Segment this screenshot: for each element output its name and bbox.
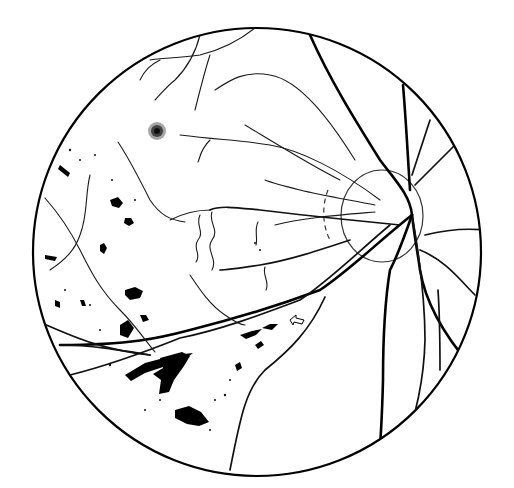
vessel-lower-left: [35, 320, 150, 355]
vessel-superior-temporal: [180, 135, 380, 200]
vessel-nasal-4: [425, 229, 485, 235]
fundus-diagram: [0, 0, 514, 488]
vessel-left-1: [118, 142, 185, 222]
vessel-superior-branch: [245, 125, 340, 180]
vessel-horizontal-1: [210, 207, 400, 225]
macular-pigment-spot: [148, 122, 166, 140]
vessel-left-2: [45, 198, 155, 352]
vessel-left-3: [50, 175, 90, 270]
vessel-upper-1: [150, 28, 255, 60]
vessel-major-superior: [310, 35, 470, 365]
vessel-nasal-3: [420, 250, 475, 295]
arrow-marker: [290, 315, 304, 325]
vessel-inferior-lower: [230, 297, 325, 470]
vessel-upper-3: [195, 55, 210, 110]
vessel-inferior-nasal: [405, 215, 425, 440]
vessel-temporal-1: [265, 180, 375, 205]
vessel-upper-4: [140, 60, 160, 80]
vessel-nasal-5: [438, 290, 440, 370]
vessel-branch-small: [198, 140, 210, 162]
vessel-superior-arcade: [215, 74, 355, 160]
vessel-inferior-arcade-2: [70, 225, 390, 375]
vessel-horizontal-2: [220, 240, 350, 270]
vessel-upper-2: [155, 35, 200, 100]
optic-disc-dashed-margin: [324, 190, 330, 240]
vessel-nasal-1: [412, 120, 430, 175]
vessel-major-vertical: [403, 85, 410, 190]
field-of-view-circle: [33, 28, 481, 476]
vessel-tortuous-3: [256, 222, 258, 245]
vessel-tortuous-1: [196, 215, 201, 262]
vessel-inferior-arcade: [60, 215, 412, 345]
vessel-nasal-2: [415, 145, 455, 185]
vessel-horizontal-3: [170, 210, 210, 220]
pigment-clumps: [45, 165, 278, 426]
vessel-tortuous-2: [210, 212, 215, 270]
vessel-tortuous-4: [264, 267, 267, 290]
